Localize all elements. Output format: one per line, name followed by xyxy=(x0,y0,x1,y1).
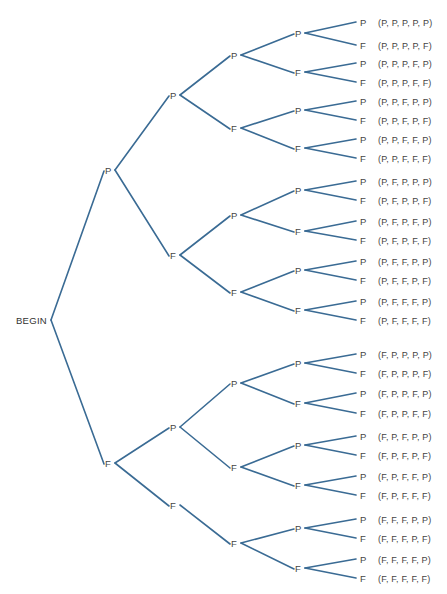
leaf-node: P xyxy=(360,176,366,187)
tree-edge xyxy=(305,101,356,110)
leaf-node: F xyxy=(360,195,366,206)
outcome-tuple: (P, F, F, P, P) xyxy=(378,257,432,267)
tree-edge xyxy=(241,529,294,543)
tree-edge xyxy=(305,22,356,33)
tree-edge xyxy=(51,320,104,464)
tree-edge xyxy=(51,171,104,320)
outcome-tuple: (P, F, P, F, F) xyxy=(378,236,431,246)
outcome-tuple: (F, F, F, F, F) xyxy=(378,574,431,584)
leaf-node: P xyxy=(360,514,366,525)
outcome-tuple: (P, P, F, P, P) xyxy=(378,97,432,107)
leaf-node: P xyxy=(360,388,366,399)
tree-edge xyxy=(241,111,294,128)
leaf-node: P xyxy=(360,256,366,267)
leaf-node: F xyxy=(360,115,366,126)
outcome-tuple: (F, F, F, P, F) xyxy=(378,534,431,544)
leaf-node: F xyxy=(360,235,366,246)
leaf-node: P xyxy=(360,431,366,442)
tree-edge xyxy=(305,310,356,320)
tree-edge xyxy=(180,384,230,427)
node-pfp: P xyxy=(231,210,237,221)
leaf-node: P xyxy=(360,296,366,307)
tree-edge xyxy=(180,255,230,293)
outcome-tuple: (P, P, P, P, P) xyxy=(378,18,432,28)
leaf-node: F xyxy=(360,490,366,501)
tree-edge xyxy=(241,128,294,149)
node-fpf: F xyxy=(231,462,237,473)
outcome-tuple: (P, P, P, F, F) xyxy=(378,78,432,88)
tree-edge xyxy=(305,139,356,148)
outcome-tuple: (P, F, F, F, F) xyxy=(378,316,431,326)
tree-edge xyxy=(180,216,230,255)
begin-label: BEGIN xyxy=(16,315,47,326)
tree-edge xyxy=(305,148,356,158)
leaf-node: F xyxy=(360,533,366,544)
outcome-tuple: (P, F, F, F, P) xyxy=(378,297,431,307)
outcome-tuple: (P, P, P, F, P) xyxy=(378,59,432,69)
tree-edge xyxy=(305,393,356,403)
probability-tree-diagram: BEGIN PFPFPFPFPFPFFPFPFPFPFPFPFPFP(P, P,… xyxy=(0,0,447,594)
node-ppf: F xyxy=(231,123,237,134)
outcome-tuple: (P, F, P, P, P) xyxy=(378,177,432,187)
tree-edge xyxy=(241,467,294,486)
node-fpff: F xyxy=(295,480,301,491)
outcome-tuple: (F, F, F, P, P) xyxy=(378,515,431,525)
node-ff: F xyxy=(170,500,176,511)
node-fpfp: P xyxy=(295,440,301,451)
outcome-tuple: (P, P, P, P, F) xyxy=(378,41,432,51)
tree-edge xyxy=(305,559,356,568)
outcome-tuple: (F, P, P, F, P) xyxy=(378,389,432,399)
tree-edges xyxy=(51,22,356,578)
leaf-node: F xyxy=(360,315,366,326)
tree-edge xyxy=(115,428,169,463)
tree-labels: BEGIN PFPFPFPFPFPFFPFPFPFPFPFPFPFP(P, P,… xyxy=(16,17,432,584)
tree-edge xyxy=(241,34,294,55)
node-pf: F xyxy=(170,250,176,261)
tree-edge xyxy=(305,568,356,578)
outcome-tuple: (P, F, F, P, F) xyxy=(378,276,431,286)
node-f: F xyxy=(105,458,111,469)
tree-edge xyxy=(180,95,230,129)
tree-edge xyxy=(305,363,356,373)
leaf-node: F xyxy=(360,450,366,461)
leaf-node: F xyxy=(360,368,366,379)
outcome-tuple: (F, P, P, P, P) xyxy=(378,350,432,360)
tree-edge xyxy=(241,446,294,467)
outcome-tuple: (P, P, F, P, F) xyxy=(378,116,432,126)
leaf-node: F xyxy=(360,275,366,286)
tree-edge xyxy=(241,215,294,232)
leaf-node: F xyxy=(360,40,366,51)
outcome-tuple: (F, P, F, F, P) xyxy=(378,472,431,482)
leaf-node: P xyxy=(360,349,366,360)
leaf-node: P xyxy=(360,134,366,145)
node-ppff: F xyxy=(295,143,301,154)
leaf-node: P xyxy=(360,471,366,482)
tree-edge xyxy=(305,476,356,485)
outcome-tuple: (P, F, P, F, P) xyxy=(378,217,432,227)
outcome-tuple: (F, P, F, P, F) xyxy=(378,451,431,461)
leaf-node: P xyxy=(360,554,366,565)
leaf-node: F xyxy=(360,573,366,584)
leaf-node: P xyxy=(360,58,366,69)
outcome-tuple: (F, P, P, P, F) xyxy=(378,369,432,379)
node-ffff: F xyxy=(295,563,301,574)
outcome-tuple: (F, F, F, F, P) xyxy=(378,555,431,565)
tree-edge xyxy=(115,170,169,256)
tree-edge xyxy=(305,301,356,310)
tree-edge xyxy=(305,231,356,240)
tree-edge xyxy=(305,221,356,231)
leaf-node: F xyxy=(360,408,366,419)
tree-edge xyxy=(115,463,169,506)
tree-edge xyxy=(115,96,169,170)
outcome-tuple: (F, P, P, F, F) xyxy=(378,409,431,419)
tree-edge xyxy=(305,33,356,45)
tree-edge xyxy=(305,354,356,363)
tree-edge xyxy=(305,485,356,495)
leaf-node: F xyxy=(360,153,366,164)
node-pff: F xyxy=(231,287,237,298)
tree-edge xyxy=(180,427,230,468)
node-pfpf: F xyxy=(295,226,301,237)
tree-edge xyxy=(241,383,294,404)
node-pppf: F xyxy=(295,67,301,78)
outcome-tuple: (P, F, P, P, F) xyxy=(378,196,432,206)
